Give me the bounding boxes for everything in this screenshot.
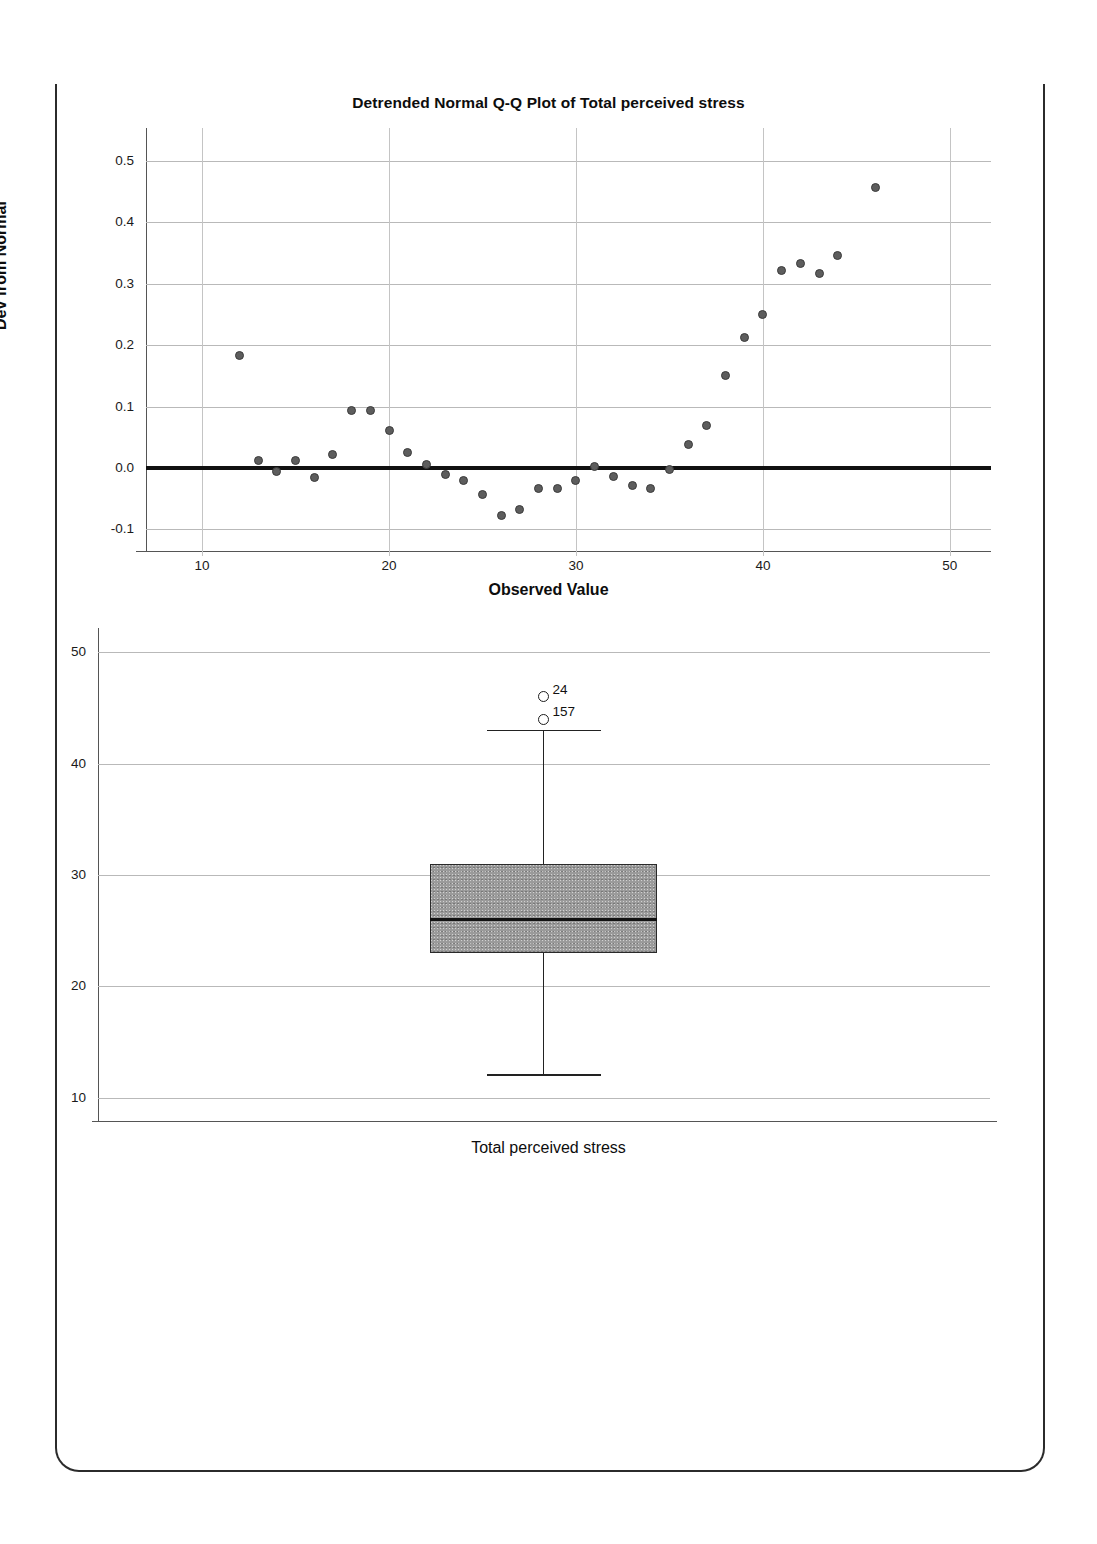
outlier-label: 24 bbox=[553, 683, 568, 697]
outlier-label: 157 bbox=[553, 705, 576, 719]
whisker-cap bbox=[487, 1074, 601, 1076]
whisker-cap bbox=[487, 730, 601, 732]
y-tick-label: 40 bbox=[0, 757, 86, 771]
boxplot-plot-area: 24157 bbox=[98, 628, 990, 1122]
gridline bbox=[98, 1098, 990, 1099]
y-tick-label: 30 bbox=[0, 868, 86, 882]
whisker-stem bbox=[543, 730, 545, 864]
boxplot-x-axis-title: Total perceived stress bbox=[0, 1139, 1097, 1157]
whisker-stem bbox=[543, 953, 545, 1075]
y-tick-label: 20 bbox=[0, 979, 86, 993]
boxplot-box bbox=[430, 864, 657, 953]
boxplot-median-line bbox=[430, 918, 657, 921]
gridline bbox=[98, 652, 990, 653]
y-tick-label: 10 bbox=[0, 1091, 86, 1105]
boxplot-chart: 24157 1020304050 Total perceived stress bbox=[0, 0, 1097, 1160]
outlier-marker bbox=[538, 714, 549, 725]
y-tick-label: 50 bbox=[0, 645, 86, 659]
outlier-marker bbox=[538, 691, 549, 702]
